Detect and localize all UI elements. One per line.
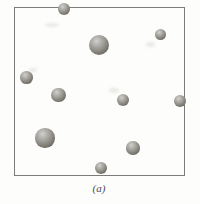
particles-layer	[0, 0, 200, 204]
particle	[35, 128, 54, 147]
particle	[117, 94, 129, 106]
particle	[20, 71, 33, 84]
particle	[155, 29, 167, 41]
particle	[95, 162, 107, 174]
scan-smudge	[146, 42, 155, 47]
scan-smudge	[45, 23, 59, 27]
particle	[89, 35, 109, 55]
particle	[51, 88, 65, 102]
particle	[58, 3, 70, 15]
figure-panel: (a)	[0, 0, 200, 204]
scan-smudge	[109, 88, 119, 93]
figure-label: (a)	[14, 183, 185, 194]
particle	[126, 141, 139, 154]
particle	[174, 95, 186, 107]
